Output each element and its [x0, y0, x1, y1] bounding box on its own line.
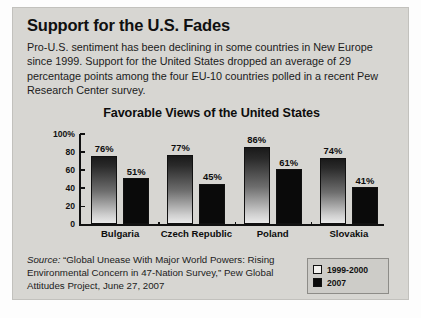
source-label: Source:: [27, 254, 60, 265]
bar-value-label: 51%: [127, 166, 146, 177]
summary-paragraph: Pro-U.S. sentiment has been declining in…: [27, 40, 389, 98]
legend-item: 1999-2000: [313, 263, 383, 276]
y-axis-label: 40: [65, 183, 75, 193]
bar-2007-slovakia: [352, 187, 378, 224]
bar-1999-2000-bulgaria: [91, 156, 117, 225]
y-axis-tick: [80, 224, 85, 226]
chart-title: Favorable Views of the United States: [27, 106, 396, 120]
y-axis-label: 0: [70, 219, 75, 229]
bar-value-label: 74%: [323, 145, 342, 156]
bar-1999-2000-slovakia: [320, 158, 346, 225]
legend-item-label: 2007: [327, 278, 346, 288]
x-axis-category-label: Poland: [257, 228, 289, 239]
chart-legend: 1999-20002007: [307, 258, 389, 294]
y-axis-label: 20: [65, 201, 75, 211]
legend-swatch-icon: [313, 265, 322, 274]
x-axis-line: [79, 224, 384, 226]
chart-plot-area: 020406080100%76%51%Bulgaria77%45%Czech R…: [79, 134, 384, 226]
bar-value-label: 61%: [279, 157, 298, 168]
bar-2007-czech-republic: [199, 184, 225, 225]
bar-2007-poland: [276, 169, 302, 224]
x-axis-tick: [311, 222, 313, 226]
bar-value-label: 86%: [247, 134, 266, 145]
y-axis-tick: [80, 151, 85, 153]
legend-item: 2007: [313, 276, 383, 289]
x-axis-tick: [235, 222, 237, 226]
page-title: Support for the U.S. Fades: [27, 16, 230, 35]
bar-2007-bulgaria: [123, 178, 149, 224]
y-axis-label: 100%: [53, 129, 75, 139]
x-axis-tick: [158, 222, 160, 226]
y-axis-line: [79, 134, 81, 226]
y-axis-label: 60: [65, 165, 75, 175]
y-axis-label: 80: [65, 147, 75, 157]
bar-value-label: 41%: [355, 175, 374, 186]
x-axis-category-label: Czech Republic: [161, 228, 232, 239]
y-axis-tick: [80, 187, 85, 189]
bar-value-label: 45%: [203, 171, 222, 182]
infographic-card: Support for the U.S. Fades Pro-U.S. sent…: [12, 7, 409, 300]
y-axis-tick: [80, 133, 85, 135]
bar-chart: Favorable Views of the United States 020…: [27, 106, 396, 246]
bar-1999-2000-poland: [244, 147, 270, 225]
y-axis-tick: [80, 169, 85, 171]
bar-value-label: 77%: [171, 142, 190, 153]
bar-1999-2000-czech-republic: [167, 155, 193, 225]
legend-swatch-icon: [313, 278, 322, 287]
y-axis-tick: [80, 206, 85, 208]
x-axis-category-label: Slovakia: [329, 228, 368, 239]
source-text: “Global Unease With Major World Powers: …: [27, 254, 275, 291]
legend-item-label: 1999-2000: [327, 265, 368, 275]
bar-value-label: 76%: [95, 143, 114, 154]
x-axis-category-label: Bulgaria: [101, 228, 139, 239]
source-note: Source: “Global Unease With Major World …: [27, 253, 295, 293]
